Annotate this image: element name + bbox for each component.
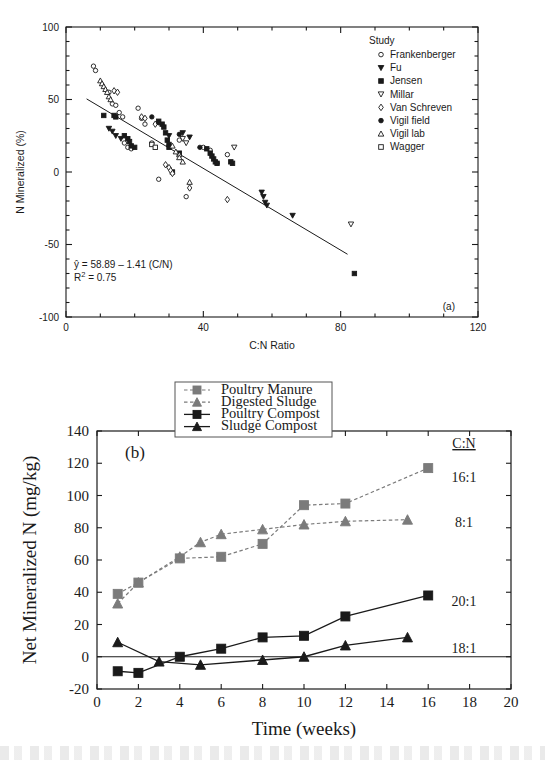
panel-b-yticklabel: 100	[67, 488, 90, 504]
panel-b-xticklabel: 2	[135, 694, 143, 710]
marker-filled-square	[258, 539, 267, 548]
panel-b-yticklabel: 60	[74, 552, 89, 568]
marker-open-circle	[120, 115, 124, 119]
marker-open-circle	[184, 194, 188, 198]
marker-open-down-triangle	[183, 141, 188, 146]
marker-filled-square	[341, 612, 350, 621]
panel-b-cn-header: C:N	[452, 436, 475, 451]
marker-open-circle	[136, 106, 140, 110]
marker-filled-square	[193, 410, 201, 418]
marker-open-circle	[225, 152, 229, 156]
panel-a-legend-label: Frankenberger	[390, 49, 456, 60]
marker-filled-square	[102, 113, 106, 117]
panel-b-cn-value: 16:1	[452, 470, 477, 485]
marker-open-circle	[122, 141, 126, 145]
marker-filled-square	[300, 501, 309, 510]
marker-open-up-triangle	[187, 179, 192, 184]
marker-filled-up-triangle	[113, 599, 123, 609]
panel-b-xticklabel: 14	[379, 694, 395, 710]
panel-b-yticklabel: 20	[74, 617, 89, 633]
marker-open-down-triangle	[378, 92, 384, 97]
panel-b-yticklabel: 80	[74, 520, 89, 536]
panel-a-legend-title: Study	[369, 35, 395, 46]
panel-a-xticklabel: 120	[470, 322, 487, 333]
marker-filled-square	[230, 161, 234, 165]
marker-filled-square	[175, 652, 184, 661]
panel-b-cn-value: 18:1	[452, 641, 477, 656]
marker-open-circle	[114, 103, 118, 107]
panel-b-yticklabel: 140	[67, 423, 90, 439]
marker-filled-square	[132, 145, 136, 149]
marker-open-diamond	[379, 104, 384, 111]
panel-a-yticklabel: 50	[48, 94, 60, 105]
marker-open-down-triangle	[232, 145, 237, 150]
marker-filled-square	[165, 138, 169, 142]
marker-filled-square	[217, 644, 226, 653]
marker-filled-square	[114, 115, 118, 119]
two-panel-figure: 04080120-100-50050100C:N RatioN Minerali…	[0, 0, 545, 762]
panel-a-regression-line	[87, 99, 348, 254]
panel-b-xticklabel: 16	[421, 694, 437, 710]
marker-filled-square	[134, 668, 143, 677]
marker-filled-square	[424, 464, 433, 473]
marker-open-down-triangle	[348, 222, 353, 227]
panel-a-xaxis-title: C:N Ratio	[249, 339, 295, 351]
marker-filled-down-triangle	[378, 66, 384, 71]
marker-filled-down-triangle	[261, 194, 266, 199]
marker-filled-circle	[379, 118, 384, 123]
panel-a-equation-annotation: ŷ = 58.89 – 1.41 (C/N)	[74, 259, 173, 270]
marker-filled-circle	[150, 115, 154, 119]
marker-filled-down-triangle	[187, 135, 192, 140]
marker-filled-up-triangle	[403, 632, 413, 642]
marker-filled-square	[379, 79, 384, 84]
panel-b-cn-value: 8:1	[455, 515, 473, 530]
panel-a-label: (a)	[443, 301, 455, 312]
panel-a-xticklabel: 0	[63, 322, 69, 333]
marker-filled-circle	[177, 132, 181, 136]
panel-b-yaxis-title: Net Mineralized N (mg/kg)	[19, 456, 41, 664]
panel-b-label: (b)	[125, 443, 145, 462]
panel-a-yticklabel: 0	[53, 167, 59, 178]
panel-b-xticklabel: 4	[176, 694, 184, 710]
panel-a-legend-label: Fu	[390, 62, 402, 73]
panel-a-yticklabel: -50	[45, 239, 60, 250]
panel-b-yticklabel: 120	[67, 455, 90, 471]
panel-b-xticklabel: 12	[338, 694, 353, 710]
panel-a-legend-label: Vigil lab	[390, 128, 425, 139]
panel-a-plot-frame	[66, 27, 478, 317]
marker-filled-square	[113, 667, 122, 676]
marker-open-circle	[379, 52, 384, 57]
marker-filled-square	[163, 131, 167, 135]
panel-b-legend-label: Sludge Compost	[221, 417, 317, 433]
panel-b-xticklabel: 6	[217, 694, 225, 710]
marker-filled-square	[205, 147, 209, 151]
panel-b-xticklabel: 10	[297, 694, 312, 710]
marker-filled-down-triangle	[290, 213, 295, 218]
marker-filled-square	[113, 589, 122, 598]
marker-open-circle	[157, 177, 161, 181]
panel-b-xticklabel: 20	[504, 694, 519, 710]
marker-open-up-triangle	[378, 131, 384, 136]
marker-open-circle	[91, 64, 95, 68]
marker-filled-square	[127, 139, 131, 143]
panel-a-legend-label: Jensen	[390, 75, 422, 86]
marker-filled-square	[424, 591, 433, 600]
panel-a-legend-label: Vigil field	[390, 115, 430, 126]
panel-b-xaxis-title: Time (weeks)	[252, 718, 356, 740]
panel-b-yticklabel: 40	[74, 584, 89, 600]
marker-open-square	[379, 145, 384, 150]
marker-filled-circle	[157, 121, 161, 125]
panel-a-yaxis-title: N Mineralized (%)	[14, 130, 26, 213]
marker-filled-square	[193, 386, 201, 394]
caption-smudge	[0, 746, 545, 760]
marker-open-circle	[143, 122, 147, 126]
panel-b-series-line	[118, 595, 429, 672]
panel-a-legend-label: Millar	[390, 89, 415, 100]
panel-b-xticklabel: 0	[93, 694, 101, 710]
panel-a-legend-label: Van Schreven	[390, 102, 452, 113]
panel-b-xticklabel: 8	[259, 694, 267, 710]
panel-a-r2-annotation: R2 = 0.75	[74, 270, 117, 284]
panel-a-yticklabel: 100	[42, 22, 59, 33]
marker-filled-square	[341, 499, 350, 508]
marker-filled-up-triangle	[196, 537, 206, 547]
